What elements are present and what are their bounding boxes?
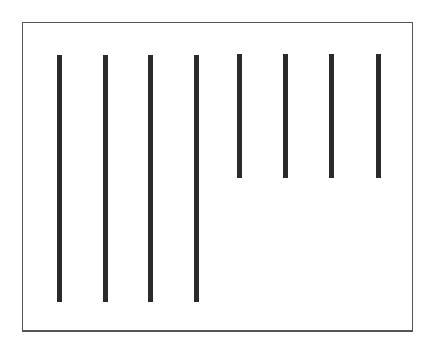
figure-frame	[22, 22, 413, 332]
short-vertical-line	[237, 54, 242, 178]
short-vertical-line	[376, 54, 381, 178]
long-vertical-line	[57, 55, 62, 302]
long-vertical-line	[194, 55, 199, 302]
long-vertical-line	[148, 55, 153, 302]
long-vertical-line	[103, 55, 108, 302]
short-vertical-line	[283, 54, 288, 178]
short-vertical-line	[329, 54, 334, 178]
